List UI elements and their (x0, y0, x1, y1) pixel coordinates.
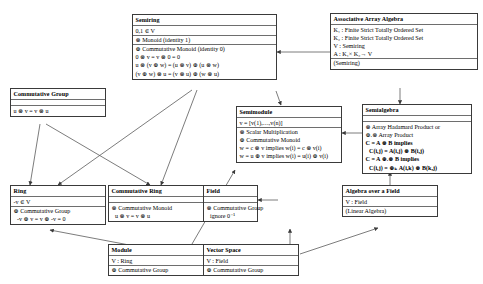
node-ring-row-1: ⊕ Commutative Group (11, 207, 105, 215)
node-field-body: ⊗ Commutative Group ignore 0⁻¹ (204, 203, 257, 221)
node-semiring[interactable]: Semiring 0,1 ∈ V ⊗ Monoid (identity 1) ⊕… (132, 14, 277, 80)
node-semiring-row-5: (v ⊕ w) ⊗ u = (v ⊗ u) ⊕ (w ⊗ u) (133, 70, 276, 78)
diagram-canvas: Semiring 0,1 ∈ V ⊗ Monoid (identity 1) ⊕… (0, 0, 483, 284)
node-semiring-title: Semiring (133, 15, 276, 26)
node-commutative-ring[interactable]: Commutative Ring ⊗ Commutative Monoid u … (108, 185, 208, 222)
node-aaa-row-0: K₁ : Finite Strict Totally Ordered Set (331, 26, 477, 34)
node-commgroup-row-0: u ⊗ v = v ⊗ u (11, 107, 105, 115)
node-commring-row-1: u ⊗ v = v ⊗ u (109, 212, 207, 220)
node-commring-row-0: ⊗ Commutative Monoid (109, 204, 207, 212)
node-semiring-body: 0,1 ∈ V ⊗ Monoid (identity 1) ⊕ Commutat… (133, 26, 276, 79)
node-associative-array-algebra-body: K₁ : Finite Strict Totally Ordered Set K… (331, 25, 477, 69)
node-aaa-row-3: A : K₁× K₂→ V (331, 50, 477, 59)
node-vector-space[interactable]: Vector Space V : Field ⊕ Commutative Gro… (203, 244, 299, 276)
node-semimodule-row-2: ⊕ Commutative Monoid (237, 136, 341, 144)
node-module-body: V : Ring ⊕ Commutative Group (109, 256, 207, 275)
node-semimodule-row-3: w = c ⊗ v implies w(i) = c ⊗ v(i) (237, 144, 341, 152)
node-field-row-0: ⊗ Commutative Group (204, 204, 257, 212)
node-commutative-group-body: u ⊗ v = v ⊗ u (11, 106, 105, 116)
node-semiring-row-2: ⊕ Commutative Monoid (identity 0) (133, 45, 276, 53)
node-module[interactable]: Module V : Ring ⊕ Commutative Group (108, 244, 208, 276)
node-vectorspace-row-0: V : Field (204, 257, 298, 266)
node-semimodule-row-0: v = [v(1),…,v(n)] (237, 119, 341, 128)
node-semiring-row-3: 0 ⊗ v = v ⊗ 0 = 0 (133, 53, 276, 61)
node-commutative-group-title: Commutative Group (11, 89, 105, 100)
node-algebra-over-a-field-body: V : Field (Linear Algebra) (343, 197, 437, 216)
node-semimodule[interactable]: Semimodule v = [v(1),…,v(n)] ⊗ Scalar Mu… (236, 106, 342, 163)
node-field[interactable]: Field ⊗ Commutative Group ignore 0⁻¹ (203, 185, 258, 222)
node-commutative-ring-title: Commutative Ring (109, 186, 207, 197)
edge-commgroup-to-ring (30, 124, 40, 185)
edge-algebraoverfield-to-vectorspace (300, 228, 378, 254)
node-semimodule-row-1: ⊗ Scalar Multiplication (237, 128, 341, 136)
node-algebra-over-a-field-title: Algebra over a Field (343, 186, 437, 197)
node-ring[interactable]: Ring -v ∈ V ⊕ Commutative Group -v ⊕ v =… (10, 185, 106, 225)
node-semimodule-body: v = [v(1),…,v(n)] ⊗ Scalar Multiplicatio… (237, 118, 341, 162)
node-semialgebra-row-1: ⊕.⊗ Array Product (363, 131, 471, 139)
node-ring-body: -v ∈ V ⊕ Commutative Group -v ⊕ v = v ⊕ … (11, 197, 105, 224)
node-semimodule-row-4: w = u ⊕ v implies w(i) = u(i) ⊕ v(i) (237, 152, 341, 160)
node-commutative-ring-body: ⊗ Commutative Monoid u ⊗ v = v ⊗ u (109, 203, 207, 221)
node-ring-title: Ring (11, 186, 105, 197)
node-semialgebra-body: ⊗ Array Hadamard Product or ⊕.⊗ Array Pr… (363, 122, 471, 173)
node-algebra-over-a-field[interactable]: Algebra over a Field V : Field (Linear A… (342, 185, 438, 217)
node-aof-row-1: (Linear Algebra) (343, 207, 437, 215)
edge-semiring-to-semimodule (276, 91, 281, 105)
node-semialgebra-row-0: ⊗ Array Hadamard Product or (363, 123, 471, 131)
node-semiring-row-1: ⊗ Monoid (identity 1) (133, 36, 276, 45)
node-aaa-row-4: (Semiring) (331, 59, 477, 67)
node-semiring-row-4: u ⊗ (v ⊕ w) = (u ⊗ v) ⊕ (u ⊗ w) (133, 61, 276, 69)
node-semialgebra-row-4: C = A ⊕.⊗ B implies (363, 155, 471, 163)
node-vector-space-body: V : Field ⊕ Commutative Group (204, 256, 298, 275)
node-semialgebra-row-5: C(i,j) = ⊕ₖ A(i,k) ⊗ B(k,j) (363, 164, 471, 172)
node-commutative-group[interactable]: Commutative Group u ⊗ v = v ⊗ u (10, 88, 106, 117)
node-associative-array-algebra-title: Associative Array Algebra (331, 14, 477, 25)
node-ring-row-0: -v ∈ V (11, 198, 105, 207)
node-field-title: Field (204, 186, 257, 197)
node-aaa-row-2: V : Semiring (331, 42, 477, 50)
node-associative-array-algebra[interactable]: Associative Array Algebra K₁ : Finite St… (330, 13, 478, 70)
node-module-row-1: ⊕ Commutative Group (109, 266, 207, 274)
node-vector-space-title: Vector Space (204, 245, 298, 256)
node-vectorspace-row-1: ⊕ Commutative Group (204, 266, 298, 274)
node-semialgebra[interactable]: Semialgebra ⊗ Array Hadamard Product or … (362, 104, 472, 174)
node-aof-row-0: V : Field (343, 198, 437, 207)
node-field-row-1: ignore 0⁻¹ (204, 212, 257, 220)
node-semialgebra-row-3: C(i,j) = A(i,j) ⊗ B(i,j) (363, 147, 471, 155)
edge-semiring-to-commring (161, 90, 197, 185)
node-semimodule-title: Semimodule (237, 107, 341, 118)
node-semialgebra-row-2: C = A ⊗ B implies (363, 139, 471, 147)
edge-commgroup-to-commring (46, 124, 150, 185)
node-module-title: Module (109, 245, 207, 256)
node-module-row-0: V : Ring (109, 257, 207, 266)
node-semialgebra-title: Semialgebra (363, 105, 471, 116)
node-semiring-row-0: 0,1 ∈ V (133, 27, 276, 36)
node-aaa-row-1: K₂ : Finite Strict Totally Ordered Set (331, 34, 477, 42)
node-ring-row-2: -v ⊕ v = v ⊕ -v = 0 (11, 215, 105, 223)
